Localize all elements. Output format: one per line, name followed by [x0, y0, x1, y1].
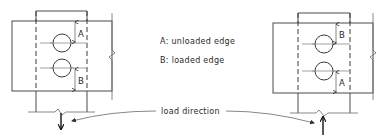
- load-direction-leader-left: [72, 111, 156, 121]
- right-bottom-break-line: [290, 110, 358, 116]
- legend-a-text: A: unloaded edge: [160, 37, 235, 46]
- legend: A: unloaded edge B: loaded edge: [160, 37, 235, 65]
- right-dimension-top-label: B: [339, 30, 345, 40]
- right-main-plate: [273, 23, 373, 93]
- load-direction-label: load direction: [161, 107, 220, 116]
- left-dimension-bottom-label: B: [78, 76, 84, 86]
- right-upper-member: [298, 13, 350, 23]
- left-main-plate: [12, 21, 112, 91]
- left-dimension-top-label: A: [78, 29, 84, 39]
- bolted-joint-diagram: A B B A A: unloaded edge B: loaded edge: [0, 0, 387, 140]
- load-direction-callout: load direction: [72, 107, 314, 123]
- left-joint: A B: [12, 11, 115, 129]
- right-dimension-bottom-label: A: [339, 78, 345, 88]
- left-upper-member: [36, 11, 87, 21]
- legend-b-text: B: loaded edge: [160, 56, 225, 65]
